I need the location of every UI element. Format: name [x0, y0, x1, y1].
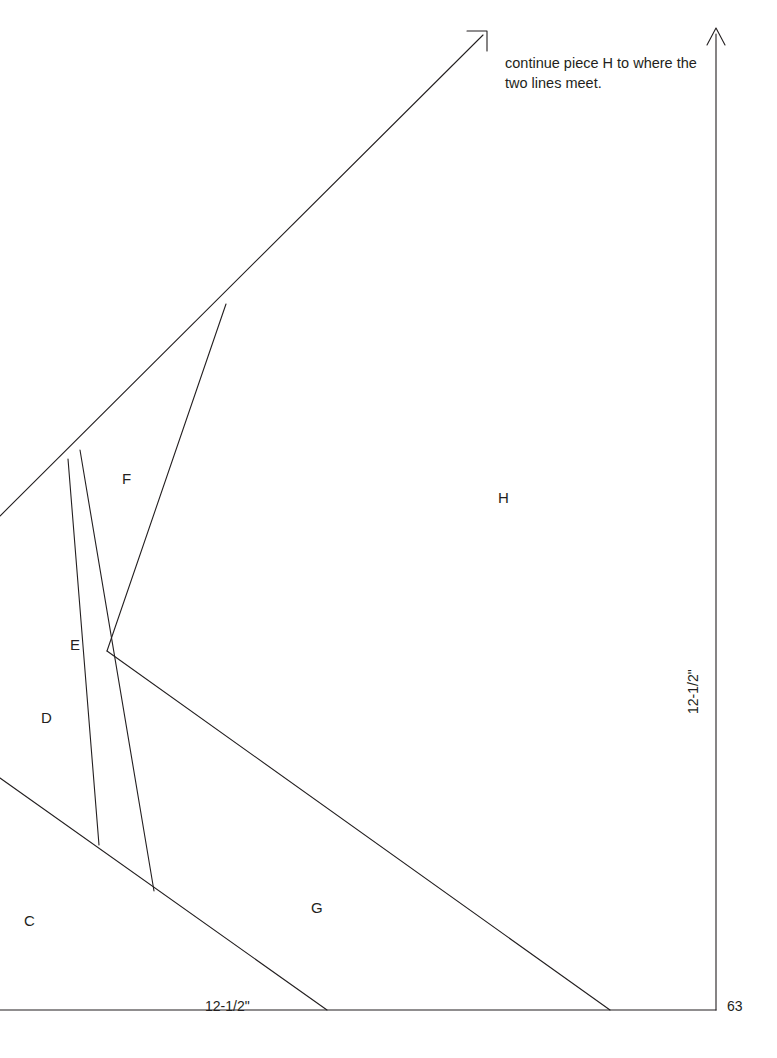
- piece-cd-boundary: [0, 778, 327, 1010]
- piece-label-f: F: [122, 471, 131, 486]
- pattern-diagram: [0, 0, 777, 1058]
- piece-label-h: H: [498, 490, 509, 505]
- diagram-page: continue piece H to where the two lines …: [0, 0, 777, 1058]
- piece-g-upper-edge: [107, 651, 610, 1010]
- piece-label-c: C: [24, 913, 35, 928]
- piece-label-e: E: [70, 637, 80, 652]
- piece-e-left-edge: [80, 450, 154, 891]
- piece-label-d: D: [41, 710, 52, 725]
- dimension-label-right: 12-1/2": [686, 669, 700, 714]
- instruction-note: continue piece H to where the two lines …: [505, 54, 720, 93]
- page-number: 63: [727, 999, 743, 1013]
- dimension-label-bottom: 12-1/2": [205, 999, 250, 1013]
- upper-diagonal-axis: [0, 35, 483, 516]
- piece-label-g: G: [311, 900, 323, 915]
